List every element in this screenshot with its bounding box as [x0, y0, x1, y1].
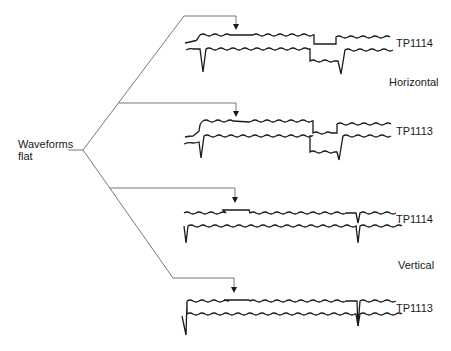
arrow-down-icon	[232, 197, 238, 203]
waveform-panel-v-tp1114	[184, 210, 402, 243]
waveform-trace-lower	[184, 225, 402, 243]
testpoint-label-h-tp1113: TP1113	[396, 125, 433, 138]
waveform-trace-upper	[185, 120, 391, 137]
branch-line-2	[119, 103, 236, 115]
source-label-line1: Waveforms	[18, 138, 73, 150]
branch-line-3	[110, 188, 235, 201]
arrow-down-icon	[233, 111, 239, 117]
waveform-trace-lower	[186, 48, 393, 74]
branch-line-4	[83, 150, 234, 291]
arrow-down-icon	[233, 24, 239, 30]
arrow-down-icon	[231, 287, 237, 293]
waveform-panel-h-tp1114	[185, 34, 393, 74]
testpoint-label-v-tp1114: TP1114	[396, 213, 433, 226]
waveform-trace-upper	[185, 34, 390, 44]
waveform-panel-v-tp1113	[182, 300, 402, 335]
waveform-trace-upper	[184, 210, 396, 223]
testpoint-label-v-tp1113: TP1113	[396, 302, 433, 315]
testpoint-label-h-tp1114: TP1114	[396, 37, 433, 50]
waveform-trace-lower	[184, 135, 391, 160]
group-label-horizontal: Horizontal	[389, 76, 439, 89]
waveform-diagram	[0, 0, 451, 351]
connector-tree	[68, 16, 239, 293]
source-label-line2: flat	[18, 150, 73, 162]
waveform-trace-lower	[182, 301, 402, 335]
branch-line-1	[83, 16, 236, 150]
group-label-vertical: Vertical	[398, 259, 434, 272]
source-label: Waveforms flat	[18, 138, 73, 162]
waveform-panel-h-tp1113	[184, 120, 391, 160]
